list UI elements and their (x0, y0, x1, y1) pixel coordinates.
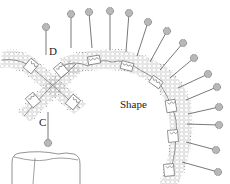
tooth-outline (12, 152, 80, 184)
pin (85, 8, 92, 48)
pin (182, 162, 222, 176)
pin (150, 27, 171, 62)
pin-head-icon (106, 7, 113, 14)
pin-head-icon (42, 23, 49, 30)
pin-stem (126, 13, 129, 52)
pin (188, 103, 223, 114)
pin (125, 9, 132, 52)
label-shape: Shape (120, 99, 147, 110)
pin (170, 54, 198, 78)
pin-head-icon (213, 83, 220, 90)
pin-stem (186, 142, 216, 150)
pin (67, 10, 74, 48)
pin-head-icon (215, 121, 222, 128)
pin-stem (178, 74, 208, 88)
pin (137, 18, 152, 56)
pin-head-icon (179, 39, 186, 46)
pin-stem (182, 162, 218, 172)
pin-head-icon (125, 9, 132, 16)
protein-box (165, 99, 177, 113)
pin-stem (160, 43, 183, 70)
pin-stem (150, 31, 167, 62)
protein-box (167, 130, 178, 143)
pin-head-icon (144, 18, 151, 25)
pin-head-icon (85, 8, 92, 15)
pin-head-icon (67, 10, 74, 17)
pin (178, 70, 212, 88)
pin (186, 83, 221, 100)
pin-head-icon (44, 139, 51, 146)
protein-box (87, 55, 100, 65)
pin (106, 7, 113, 50)
pin-head-icon (214, 168, 221, 175)
pin-stem (186, 87, 217, 100)
pin (160, 39, 187, 70)
protein-box (163, 164, 174, 177)
pin-stem (188, 107, 219, 114)
pin-head-icon (163, 27, 170, 34)
pin-stem (170, 58, 194, 78)
label-c: C (39, 117, 46, 128)
pin-stem (89, 12, 92, 48)
pin-stem (137, 22, 148, 56)
pin-head-icon (204, 70, 211, 77)
membrane-diagram (0, 0, 230, 184)
pin-head-icon (212, 146, 219, 153)
pin-head-icon (215, 103, 222, 110)
pin-head-icon (190, 54, 197, 61)
label-d: D (49, 46, 57, 57)
